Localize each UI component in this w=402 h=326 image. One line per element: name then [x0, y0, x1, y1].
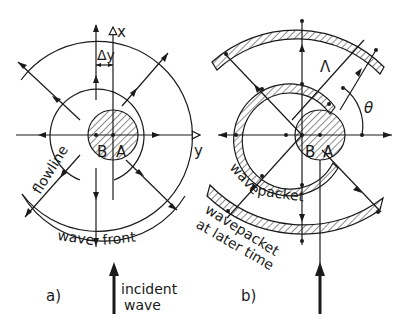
delta-y-label: Δy — [97, 47, 115, 63]
incident-label-2: wave — [124, 297, 161, 313]
packet-word-b: packet — [257, 182, 306, 204]
figure: Δy x y B A flowline wave front incident … — [0, 0, 402, 326]
x-axis-label: x — [117, 23, 126, 41]
flowline-ur — [122, 53, 168, 106]
y-axis-label: y — [194, 142, 203, 160]
point-b-label: B — [97, 143, 107, 161]
panel-b: Λ θ B A wave packet wavepacket at later … — [194, 19, 393, 314]
theta-symbol: θ — [364, 99, 373, 117]
theta-arc — [344, 88, 363, 135]
front-label: front — [102, 229, 137, 248]
flowline-lr — [126, 160, 177, 210]
incident-label-1: incident — [121, 281, 178, 297]
panel-a: Δy x y B A flowline wave front incident … — [16, 23, 203, 314]
panel-b-label: b) — [241, 287, 256, 305]
point-a-label-b: A — [323, 143, 334, 161]
point-a-label: A — [116, 143, 127, 161]
lambda-symbol: Λ — [320, 58, 331, 76]
panel-a-label: a) — [46, 287, 61, 305]
flowline-ul — [18, 62, 80, 120]
wave-label: wave — [57, 227, 96, 248]
point-b-label-b: B — [305, 143, 315, 161]
